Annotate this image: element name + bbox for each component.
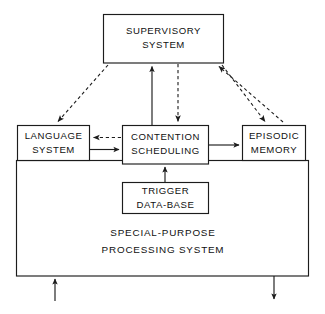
contention-scheduling-label-line2: SCHEDULING bbox=[131, 145, 199, 156]
language-system-label-line2: SYSTEM bbox=[32, 144, 75, 155]
trigger-database-label-line1: TRIGGER bbox=[142, 185, 190, 196]
language-system-label-line1: LANGUAGE bbox=[25, 130, 83, 141]
contention-scheduling-label-line1: CONTENTION bbox=[131, 131, 200, 142]
connector-supervisory-to-episodic bbox=[222, 65, 265, 122]
connector-episodic-to-supervisory bbox=[219, 67, 283, 123]
supervisory-system-label-line2: SYSTEM bbox=[142, 39, 185, 50]
diagram-canvas: SUPERVISORY SYSTEM LANGUAGE SYSTEM CONTE… bbox=[0, 0, 325, 314]
connector-supervisory-to-language bbox=[58, 65, 108, 122]
trigger-database-label-line2: DATA-BASE bbox=[137, 199, 195, 210]
episodic-memory-label-line2: MEMORY bbox=[251, 144, 297, 155]
special-purpose-processing-system-box bbox=[17, 161, 309, 277]
special-purpose-label-line1: SPECIAL-PURPOSE bbox=[110, 227, 215, 238]
special-purpose-label-line2: PROCESSING SYSTEM bbox=[102, 244, 225, 255]
system-diagram: SUPERVISORY SYSTEM LANGUAGE SYSTEM CONTE… bbox=[0, 0, 325, 314]
supervisory-system-label-line1: SUPERVISORY bbox=[126, 25, 201, 36]
episodic-memory-label-line1: EPISODIC bbox=[249, 130, 299, 141]
